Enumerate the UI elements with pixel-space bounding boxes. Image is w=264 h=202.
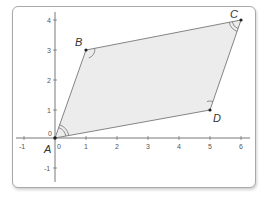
svg-text:1: 1 bbox=[84, 143, 88, 150]
svg-text:1: 1 bbox=[47, 107, 51, 114]
svg-text:2: 2 bbox=[115, 143, 119, 150]
svg-text:2: 2 bbox=[47, 77, 51, 84]
svg-text:3: 3 bbox=[47, 47, 51, 54]
svg-text:4: 4 bbox=[47, 17, 51, 24]
label-d: D bbox=[213, 112, 221, 124]
point-a bbox=[53, 136, 57, 140]
label-c: C bbox=[230, 8, 238, 20]
svg-text:0: 0 bbox=[48, 130, 52, 137]
label-a: A bbox=[43, 143, 51, 155]
coordinate-plane: -1 0 1 2 3 4 5 6 4 3 2 1 0 -1 bbox=[0, 0, 264, 202]
svg-text:-1: -1 bbox=[44, 165, 50, 172]
svg-text:0: 0 bbox=[57, 143, 61, 150]
point-b bbox=[84, 48, 87, 51]
point-c bbox=[239, 18, 242, 21]
label-b: B bbox=[75, 36, 82, 48]
svg-text:-1: -1 bbox=[19, 143, 25, 150]
point-d bbox=[208, 108, 211, 111]
svg-text:6: 6 bbox=[239, 143, 243, 150]
svg-text:3: 3 bbox=[146, 143, 150, 150]
svg-text:4: 4 bbox=[177, 143, 181, 150]
svg-text:5: 5 bbox=[208, 143, 212, 150]
